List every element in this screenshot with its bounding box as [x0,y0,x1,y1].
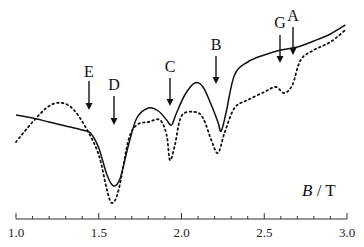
x-tick-label: 2.5 [256,225,272,240]
x-axis-title-unit: / T [312,181,336,200]
arrow-down-icon [213,77,220,84]
x-tick-label: 1.5 [91,225,107,240]
annotation-d: D [108,76,120,125]
x-tick-label: 2.0 [173,225,189,240]
annotation-label: G [274,14,286,31]
annotation-a: A [287,7,299,55]
annotation-g: G [274,14,286,63]
x-axis-title-variable: B [302,181,313,200]
annotation-arrows: EDCBGA [84,7,299,125]
series-dotted [16,30,345,203]
arrow-down-icon [167,99,174,106]
chart: EDCBGA 1.01.52.02.53.0 B / T [0,0,364,247]
x-axis-title: B / T [302,181,336,200]
annotation-label: B [211,36,222,53]
annotation-label: C [165,58,176,75]
annotation-b: B [211,36,222,84]
x-tick-label: 1.0 [8,225,24,240]
annotation-label: A [287,7,299,24]
annotation-e: E [84,63,94,110]
arrow-down-icon [277,56,284,63]
x-axis-ticks [16,213,347,219]
annotation-label: D [108,76,120,93]
curves [16,25,345,203]
arrow-down-icon [290,48,297,55]
annotation-label: E [84,63,94,80]
arrow-down-icon [86,103,93,110]
x-axis: 1.01.52.02.53.0 [8,213,355,240]
x-tick-label: 3.0 [339,225,355,240]
arrow-down-icon [111,118,118,125]
annotation-c: C [165,58,176,106]
x-axis-tick-labels: 1.01.52.02.53.0 [8,225,355,240]
